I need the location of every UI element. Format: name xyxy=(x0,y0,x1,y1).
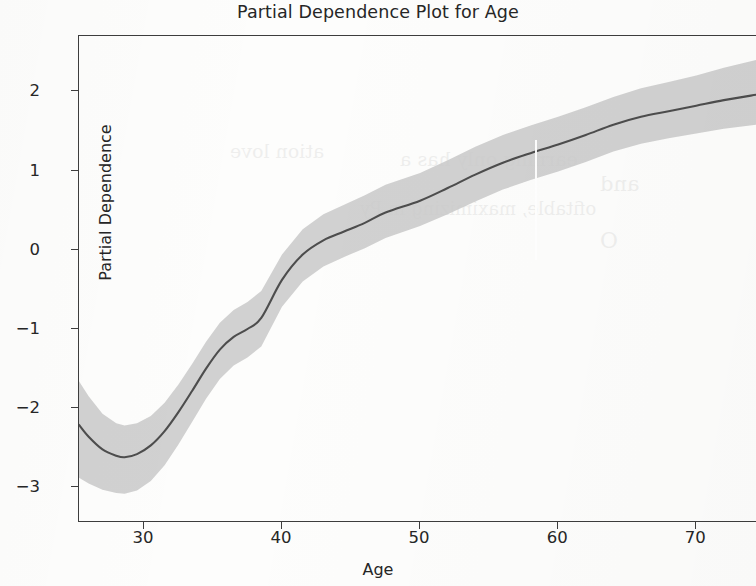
y-tick-label: 2 xyxy=(6,81,40,100)
y-tick-label: −1 xyxy=(6,319,40,338)
y-tick-mark xyxy=(71,249,78,250)
x-axis-label: Age xyxy=(0,560,756,579)
confidence-band xyxy=(79,60,756,494)
y-tick-label: −2 xyxy=(6,398,40,417)
y-tick-mark xyxy=(71,328,78,329)
x-tick-label: 70 xyxy=(665,528,725,547)
y-tick-label: 1 xyxy=(6,160,40,179)
x-tick-label: 40 xyxy=(251,528,311,547)
x-tick-label: 60 xyxy=(527,528,587,547)
chart-title: Partial Dependence Plot for Age xyxy=(0,2,756,22)
plot-canvas xyxy=(79,36,756,522)
y-tick-mark xyxy=(71,486,78,487)
x-tick-label: 50 xyxy=(389,528,449,547)
partial-dependence-figure: ation love earning only has a and ofitab… xyxy=(0,0,756,586)
x-tick-label: 30 xyxy=(113,528,173,547)
plot-area xyxy=(78,35,756,522)
y-tick-mark xyxy=(71,170,78,171)
y-tick-mark xyxy=(71,90,78,91)
y-tick-label: −3 xyxy=(6,477,40,496)
y-tick-mark xyxy=(71,407,78,408)
scan-artifact-streak xyxy=(535,140,537,260)
y-tick-label: 0 xyxy=(6,239,40,258)
